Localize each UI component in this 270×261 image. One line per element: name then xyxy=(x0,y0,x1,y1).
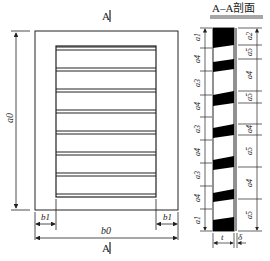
section-view: A–A剖面 a1 a4 a3 a4 a xyxy=(193,1,263,248)
right-dim-8: a5 xyxy=(245,211,254,219)
left-dim-2: a4 xyxy=(193,55,202,63)
left-dim-8: a4 xyxy=(193,194,202,202)
inner-frame-rect xyxy=(56,46,156,197)
height-label: a0 xyxy=(4,113,15,123)
section-title: A–A剖面 xyxy=(212,1,255,14)
right-dim-6: a5 xyxy=(245,147,254,155)
right-dim-4: a5 xyxy=(245,93,254,101)
left-dim-1: a1 xyxy=(193,33,202,41)
left-dim-9: a1 xyxy=(193,216,202,224)
margin-left-label: b1 xyxy=(41,212,50,222)
section-marker-top: A xyxy=(102,10,110,22)
slats xyxy=(56,47,156,194)
width-label: b0 xyxy=(101,225,111,236)
right-dim-1: a2 xyxy=(245,32,254,40)
right-dim-7: a4 xyxy=(245,179,254,187)
plate-label: δ xyxy=(238,232,243,242)
left-dim-6: a4 xyxy=(193,148,202,156)
front-view: A A a0 b1 b1 b0 xyxy=(4,10,178,254)
margin-right-label: b1 xyxy=(163,212,172,222)
right-dim-2: a5 xyxy=(245,48,254,56)
left-dim-4: a4 xyxy=(193,102,202,110)
section-marker-bottom: A xyxy=(102,242,110,254)
right-dim-3: a4 xyxy=(245,71,254,79)
left-dim-3: a3 xyxy=(193,79,202,87)
left-dim-7: a3 xyxy=(193,171,202,179)
grille-drawing: A A a0 b1 b1 b0 A–A剖面 xyxy=(0,0,270,261)
thickness-label: t xyxy=(221,232,224,242)
left-dim-5: a3 xyxy=(193,125,202,133)
right-dim-5: a4 xyxy=(245,125,254,133)
